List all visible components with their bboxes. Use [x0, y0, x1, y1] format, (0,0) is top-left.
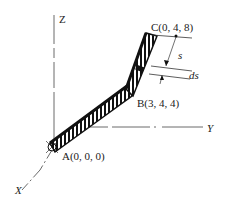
point-a-label: A(0, 0, 0): [62, 151, 105, 162]
rod-segment-bc: [126, 33, 157, 96]
point-b-label: B(3, 4, 4): [137, 98, 179, 109]
point-c-label: C(0, 4, 8): [151, 22, 193, 33]
s-label: s: [178, 50, 182, 61]
rod-3d-diagram: Z Y X A(0, 0, 0) B(3, 4, 4) C(0, 4, 8) s…: [0, 0, 225, 202]
x-axis-label: X: [15, 185, 22, 196]
x-axis: [22, 150, 52, 190]
support-at-a: [46, 141, 58, 153]
dimension-lines: [149, 35, 192, 85]
rod-segment-ab: [50, 86, 132, 152]
y-axis-label: Y: [207, 123, 213, 134]
z-axis-label: Z: [59, 14, 66, 25]
ds-label: ds: [189, 70, 199, 81]
